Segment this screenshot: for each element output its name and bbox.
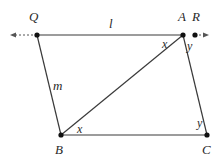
point-A <box>180 32 185 37</box>
geometry-diagram: Q A R B C l m x y x y <box>0 0 221 158</box>
label-line-m: m <box>53 78 62 93</box>
angle-labels: x y x y <box>76 37 203 136</box>
segments <box>37 35 207 135</box>
point-Q <box>34 32 39 37</box>
point-C <box>204 132 209 137</box>
left-arrowhead-icon <box>10 33 16 38</box>
right-arrowhead-icon <box>203 33 209 38</box>
angle-x-at-A: x <box>161 37 168 51</box>
line-labels: l m <box>53 16 113 93</box>
point-B <box>58 132 63 137</box>
angle-y-at-A: y <box>186 39 193 53</box>
angle-x-at-B: x <box>76 122 83 136</box>
label-A: A <box>177 9 186 24</box>
label-line-l: l <box>109 16 113 31</box>
label-B: B <box>55 142 63 157</box>
label-C: C <box>202 142 211 157</box>
angle-y-at-C: y <box>196 116 203 130</box>
label-R: R <box>191 9 200 24</box>
point-R <box>192 32 197 37</box>
label-Q: Q <box>29 9 39 24</box>
